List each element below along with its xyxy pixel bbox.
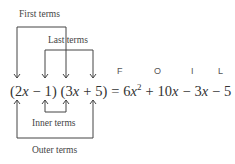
term-outer: + 10x (142, 83, 179, 99)
term-first: 6x2 (123, 83, 142, 99)
foil-letter-f: F (117, 66, 123, 76)
factor-2: (3x + 5) (57, 83, 108, 99)
bracket-arrows (0, 0, 235, 164)
last-terms-label: Last terms (48, 35, 88, 45)
foil-letter-o: O (154, 66, 161, 76)
foil-letter-i: I (191, 66, 194, 76)
last-terms-bracket (42, 50, 96, 78)
inner-terms-label: Inner terms (32, 118, 76, 128)
first-terms-label: First terms (19, 9, 60, 19)
foil-equation: (2x − 1) (3x + 5) = 6x2 + 10x − 3x − 5 (10, 83, 231, 100)
factor-1: (2x − 1) (10, 83, 57, 99)
term-last: − 5 (208, 83, 231, 99)
outer-terms-label: Outer terms (32, 145, 77, 155)
inner-terms-bracket (42, 100, 69, 112)
equals-sign: = (107, 83, 123, 99)
term-inner: − 3x (179, 83, 209, 99)
foil-letter-l: L (218, 66, 223, 76)
